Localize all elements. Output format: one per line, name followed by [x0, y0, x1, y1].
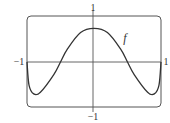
- x-min-label: −1: [14, 56, 25, 67]
- x-max-label: 1: [164, 56, 169, 67]
- viewing-window-frame: [27, 16, 161, 107]
- y-min-label: −1: [88, 111, 99, 122]
- function-graph: 1 −1 −1 1 f: [0, 0, 170, 123]
- y-max-label: 1: [91, 2, 96, 13]
- curve-label-f: f: [123, 31, 128, 45]
